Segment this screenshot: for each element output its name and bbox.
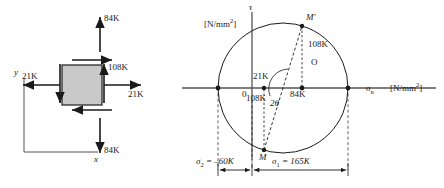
left-diagram-group [23, 17, 141, 153]
value-label-108k-lower: 108K [246, 94, 266, 103]
load-label-top-84k: 84K [104, 14, 120, 23]
load-label-bottom-84k: 84K [104, 146, 120, 155]
sigma-axis-symbol: σn [366, 84, 374, 95]
point-m-prime [300, 24, 304, 28]
sigma-axis-units: [N/mm2] [390, 82, 422, 93]
value-label-108k-upper: 108K [308, 40, 328, 49]
stress-element-square [62, 65, 102, 105]
load-label-left-21k: 21K [22, 72, 38, 81]
point-21k [262, 86, 266, 90]
load-label-right-21k: 21K [128, 90, 144, 99]
tau-axis-units: [N/mm2] [204, 18, 236, 29]
point-label-m: M [259, 153, 267, 162]
center-label-o: O [311, 58, 318, 67]
dimension-label-sigma2: σ2 = –60K [196, 157, 234, 168]
right-diagram-group [182, 12, 436, 176]
axis-label-y: y [14, 68, 18, 77]
value-label-84k: 84K [290, 90, 306, 99]
dimension-label-sigma1: σ1 = 165K [272, 157, 310, 168]
angle-arc-2theta [269, 69, 288, 96]
axis-label-x: x [94, 155, 98, 164]
value-label-21k: 21K [253, 72, 269, 81]
load-label-shear-108k: 108K [108, 63, 128, 72]
point-label-m-prime: M′ [306, 13, 315, 22]
mohr-circle-figure: y x 84K 84K 21K 21K 108K τ [N/mm2] σn [N… [0, 0, 444, 188]
tau-axis-symbol: τ [249, 3, 252, 12]
angle-label-2theta: 2θ [270, 99, 279, 108]
